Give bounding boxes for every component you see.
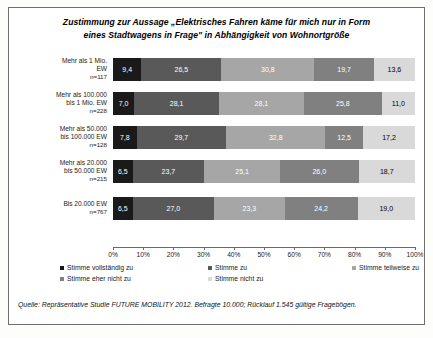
category-label: Bis 20.000 EWn=767 (18, 200, 113, 216)
stacked-bar: 6,527,023,324,219,0 (113, 197, 415, 220)
chart-title: Zustimmung zur Aussage „Elektrisches Fah… (16, 16, 417, 41)
x-axis-tick-label: 60% (288, 251, 301, 258)
legend-label: Stimme eher nicht zu (67, 275, 131, 282)
bar-segment: 19,0 (358, 197, 415, 220)
category-label-line-2: EW (96, 65, 107, 72)
category-label: Mehr als 50.000bis 100.000 EWn=128 (18, 125, 113, 150)
bar-value-label: 17,2 (382, 134, 396, 141)
category-sample-size: n=117 (18, 73, 107, 81)
bar-segment: 29,7 (137, 126, 227, 149)
bar-value-label: 12,5 (337, 134, 351, 141)
legend-item[interactable]: Stimme eher nicht zu (60, 275, 131, 282)
x-axis-tick (415, 247, 416, 250)
bar-row: Mehr als 20.000bis 50.000 EWn=2156,523,7… (18, 155, 415, 187)
bar-segment: 28,1 (219, 92, 304, 115)
x-axis-tick-label: 40% (227, 251, 240, 258)
bar-value-label: 18,7 (380, 168, 394, 175)
x-axis-tick (204, 247, 205, 250)
bar-row: Mehr als 50.000bis 100.000 EWn=1287,829,… (18, 121, 415, 153)
bar-segment: 32,8 (226, 126, 325, 149)
category-sample-size: n=228 (18, 107, 107, 115)
category-label: Mehr als 100.000bis 1 Mio. EWn=228 (18, 91, 113, 116)
x-axis-tick-label: 0% (108, 251, 118, 258)
x-axis-tick-label: 20% (167, 251, 180, 258)
bar-segment: 13,6 (374, 58, 415, 81)
bar-row: Bis 20.000 EWn=7676,527,023,324,219,0 (18, 192, 415, 224)
stacked-bar: 7,829,732,812,517,2 (113, 126, 415, 149)
x-axis-tick (143, 247, 144, 250)
category-label: Mehr als 20.000bis 50.000 EWn=215 (18, 159, 113, 184)
stacked-bar: 6,523,725,126,018,7 (113, 160, 415, 183)
category-sample-size: n=215 (18, 175, 107, 183)
bar-segment: 19,7 (314, 58, 373, 81)
x-axis-tick (234, 247, 235, 250)
category-label-line-1: Mehr als 20.000 (60, 159, 107, 166)
legend-swatch-icon (60, 277, 64, 281)
bar-segment: 23,7 (133, 160, 205, 183)
category-label-line-2: bis 100.000 EW (60, 133, 107, 140)
category-label-line-1: Mehr als 1 Mio. (62, 57, 107, 64)
x-axis-tick (294, 247, 295, 250)
bar-segment: 17,2 (363, 126, 415, 149)
x-axis-tick (173, 247, 174, 250)
stacked-bar: 9,426,530,819,713,6 (113, 58, 415, 81)
plot-area: Mehr als 1 Mio.EWn=1179,426,530,819,713,… (18, 51, 415, 247)
category-label-line-1: Bis 20.000 EW (63, 200, 107, 207)
x-axis-tick-label: 90% (378, 251, 391, 258)
x-axis-tick (324, 247, 325, 250)
legend-swatch-icon (208, 277, 212, 281)
category-label-line-1: Mehr als 50.000 (60, 125, 107, 132)
bar-segment: 25,8 (304, 92, 382, 115)
legend-label: Stimme zu (215, 264, 247, 271)
bar-segment: 6,5 (113, 160, 133, 183)
x-axis-tick (113, 247, 114, 250)
bar-value-label: 24,2 (314, 205, 328, 212)
bar-segment: 6,5 (113, 197, 133, 220)
legend-label: Stimme nicht zu (215, 275, 263, 282)
bar-segment: 25,1 (204, 160, 280, 183)
x-axis-tick-label: 50% (257, 251, 270, 258)
bar-row: Mehr als 100.000bis 1 Mio. EWn=2287,028,… (18, 87, 415, 119)
chart-title-line-2: eines Stadtwagens in Frage" in Abhängigk… (16, 29, 417, 42)
x-axis-tick (385, 247, 386, 250)
bar-segment: 28,1 (134, 92, 219, 115)
bar-value-label: 7,8 (120, 134, 130, 141)
legend-swatch-icon (352, 266, 356, 270)
legend-swatch-icon (60, 266, 64, 270)
source-note: Quelle: Repräsentative Studie FUTURE MOB… (18, 300, 417, 310)
category-label: Mehr als 1 Mio.EWn=117 (18, 57, 113, 82)
bar-value-label: 25,1 (235, 168, 249, 175)
bar-segment: 7,8 (113, 126, 137, 149)
bar-segment: 18,7 (359, 160, 415, 183)
bar-segment: 23,3 (214, 197, 284, 220)
category-sample-size: n=767 (18, 208, 107, 216)
bar-segment: 26,5 (141, 58, 221, 81)
bar-value-label: 7,0 (119, 100, 129, 107)
category-label-line-2: bis 50.000 EW (64, 167, 107, 174)
bar-segment: 9,4 (113, 58, 141, 81)
bar-value-label: 6,5 (118, 168, 128, 175)
x-axis-tick (264, 247, 265, 250)
bar-segment: 27,0 (133, 197, 215, 220)
legend-item[interactable]: Stimme teilweise zu (352, 264, 419, 271)
bar-segment: 30,8 (221, 58, 314, 81)
bar-row: Mehr als 1 Mio.EWn=1179,426,530,819,713,… (18, 53, 415, 85)
bar-segment: 24,2 (285, 197, 358, 220)
bar-value-label: 27,0 (167, 205, 181, 212)
x-axis: 0%10%20%30%40%50%60%70%80%90%100% (113, 247, 415, 263)
bar-value-label: 28,1 (255, 100, 269, 107)
bar-value-label: 13,6 (388, 66, 402, 73)
legend-item[interactable]: Stimme vollständig zu (60, 264, 133, 271)
chart-legend: Stimme vollständig zuStimme zuStimme tei… (60, 264, 411, 288)
bar-value-label: 30,8 (261, 66, 275, 73)
bar-segment: 12,5 (325, 126, 363, 149)
chart-title-line-1: Zustimmung zur Aussage „Elektrisches Fah… (16, 16, 417, 29)
x-axis-tick-label: 80% (348, 251, 361, 258)
x-axis-tick-label: 100% (407, 251, 424, 258)
legend-item[interactable]: Stimme zu (208, 264, 247, 271)
bar-value-label: 19,7 (337, 66, 351, 73)
legend-item[interactable]: Stimme nicht zu (208, 275, 263, 282)
bar-rows: Mehr als 1 Mio.EWn=1179,426,530,819,713,… (18, 51, 415, 247)
bar-segment: 11,0 (382, 92, 415, 115)
bar-value-label: 28,1 (170, 100, 184, 107)
